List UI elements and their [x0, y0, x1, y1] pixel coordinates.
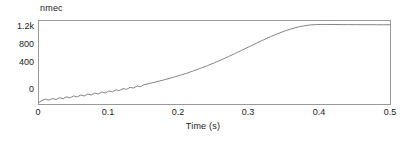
x-axis-tick-label: 0.1 — [88, 107, 128, 117]
chart-container: nmec 1.2k 800 400 0 0 0.1 0.2 0.3 0.4 0.… — [0, 0, 406, 141]
data-series-line — [39, 24, 391, 102]
plot-area — [0, 0, 406, 141]
x-axis-tick-label: 0.4 — [299, 107, 339, 117]
x-axis-tick-label: 0.2 — [158, 107, 198, 117]
x-axis-tick-label: 0.5 — [370, 107, 406, 117]
x-axis-tick-label: 0.3 — [228, 107, 268, 117]
x-axis-title: Time (s) — [0, 121, 406, 131]
x-axis-tick-label: 0 — [18, 107, 58, 117]
